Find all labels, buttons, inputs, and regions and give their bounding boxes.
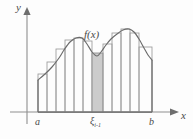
- riemann-sum-figure: y x f(x) a b ξi-1: [0, 0, 193, 139]
- y-axis-label: y: [16, 2, 21, 13]
- riemann-rectangle: [130, 33, 139, 112]
- y-axis-arrow-icon: [23, 7, 30, 15]
- riemann-rectangle: [112, 33, 121, 112]
- y-axis-group: [23, 7, 30, 124]
- riemann-rectangle: [38, 74, 47, 112]
- riemann-rectangle: [139, 47, 152, 112]
- x-axis-arrow-icon: [170, 108, 179, 115]
- riemann-rectangle: [47, 62, 56, 112]
- riemann-rectangle: [56, 49, 65, 112]
- x-axis-label: x: [181, 110, 186, 121]
- sample-point-label: ξi-1: [90, 116, 101, 128]
- riemann-rectangle: [74, 38, 83, 112]
- riemann-rectangle: [83, 41, 92, 112]
- function-label: f(x): [84, 29, 99, 40]
- riemann-rectangle-highlighted: [92, 53, 103, 112]
- riemann-rectangle: [121, 29, 130, 112]
- riemann-rectangles-layer: [38, 29, 152, 112]
- right-endpoint-label: b: [149, 117, 154, 127]
- riemann-rectangle: [103, 44, 112, 112]
- sample-point-subscript: i-1: [94, 122, 101, 128]
- left-endpoint-label: a: [35, 117, 40, 127]
- riemann-rectangle: [65, 40, 74, 112]
